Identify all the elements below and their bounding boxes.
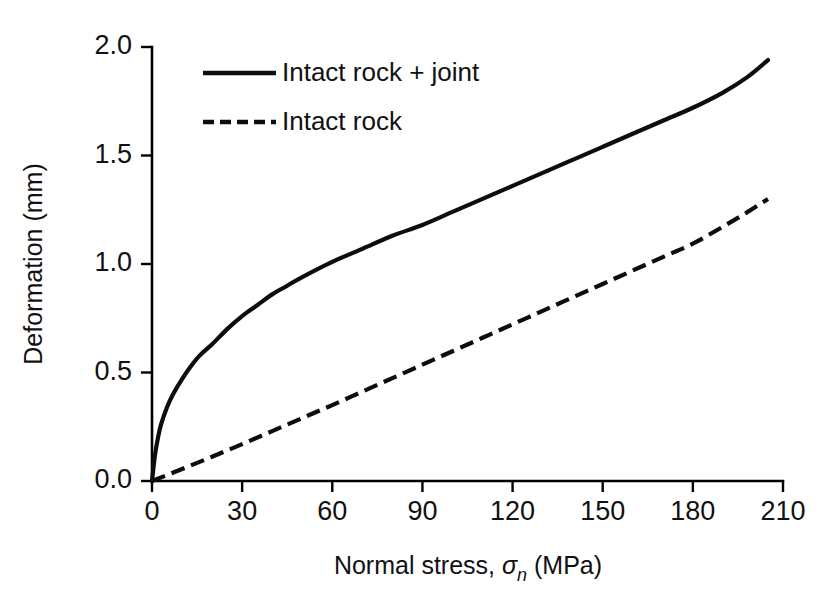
x-tick-label: 60 <box>317 496 347 526</box>
y-tick-label: 1.0 <box>94 247 132 277</box>
x-tick-label: 30 <box>227 496 257 526</box>
sigma-subscript: n <box>517 565 527 585</box>
x-tick-label: 0 <box>144 496 159 526</box>
chart-svg: 0.00.51.01.52.0 0306090120150180210 Inta… <box>0 0 837 606</box>
legend-label: Intact rock <box>282 106 403 136</box>
y-tick-label: 0.5 <box>94 356 132 386</box>
y-axis-title: Deformation (mm) <box>19 163 47 364</box>
x-tick-label: 150 <box>580 496 625 526</box>
x-tick-label: 210 <box>760 496 805 526</box>
x-tick-label: 180 <box>670 496 715 526</box>
x-tick-label: 120 <box>490 496 535 526</box>
sigma-symbol: σ <box>502 551 518 579</box>
y-tick-label: 1.5 <box>94 139 132 169</box>
legend-label: Intact rock + joint <box>282 57 480 87</box>
x-axis-title-prefix: Normal stress, <box>334 551 502 579</box>
x-axis-title-suffix: (MPa) <box>527 551 602 579</box>
y-tick-label: 0.0 <box>94 464 132 494</box>
x-tick-label: 90 <box>407 496 437 526</box>
deformation-vs-normal-stress-chart: 0.00.51.01.52.0 0306090120150180210 Inta… <box>0 0 837 606</box>
y-tick-label: 2.0 <box>94 30 132 60</box>
